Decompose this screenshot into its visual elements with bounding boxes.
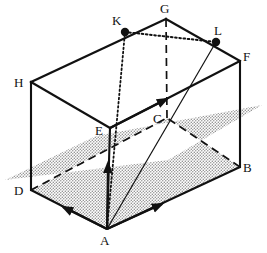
vertex-label-A: A (100, 234, 109, 247)
point-L-dot (212, 38, 220, 46)
vertex-label-G: G (160, 2, 169, 15)
point-K-dot (121, 28, 129, 36)
edge-E-H (31, 82, 110, 128)
figure-canvas (0, 0, 267, 253)
edge-C-G (166, 19, 167, 118)
geometry-figure: A B C D E F G H K L (0, 0, 267, 253)
edge-H-G (31, 19, 166, 82)
vertex-label-K: K (112, 14, 121, 27)
vertex-label-H: H (14, 76, 23, 89)
vertex-label-D: D (14, 184, 23, 197)
vertex-label-F: F (243, 50, 250, 63)
vertex-label-B: B (243, 161, 252, 174)
line-K-L (125, 32, 216, 42)
vertex-label-E: E (95, 124, 103, 137)
vertex-label-L: L (214, 24, 222, 37)
vertex-label-C: C (153, 112, 162, 125)
edge-G-F (166, 19, 240, 61)
shaded-plane (5, 105, 262, 229)
